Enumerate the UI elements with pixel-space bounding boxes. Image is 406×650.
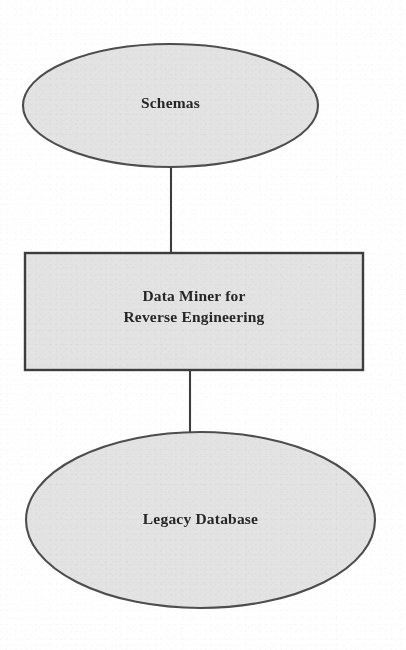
node-data-miner-shape[interactable]	[25, 253, 363, 370]
node-schemas-shape[interactable]	[23, 44, 318, 167]
node-legacy-database-shape[interactable]	[26, 432, 375, 608]
diagram-canvas	[0, 0, 406, 650]
